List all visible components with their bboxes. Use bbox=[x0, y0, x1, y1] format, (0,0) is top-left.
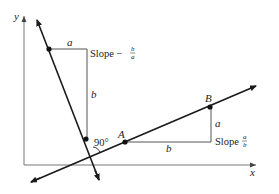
shallow-slope-text: Slope bbox=[215, 136, 239, 147]
y-axis-label: y bbox=[13, 10, 19, 22]
shallow-run-label: b bbox=[166, 142, 172, 154]
steep-lower-point bbox=[83, 136, 88, 141]
x-axis-label: x bbox=[249, 166, 255, 178]
steep-rise-label: b bbox=[91, 88, 97, 100]
steep-run-label: a bbox=[67, 36, 73, 48]
shallow-slope-denominator: b bbox=[243, 141, 247, 149]
point-a-label: A bbox=[117, 128, 125, 140]
shallow-line-lower-arrow bbox=[31, 178, 40, 182]
perpendicular-lines-diagram: y x a b Slope − b a b a Slope a b A B 90… bbox=[0, 0, 279, 194]
steep-upper-point bbox=[46, 46, 51, 51]
shallow-slope-numerator: a bbox=[243, 133, 247, 141]
right-angle-label: 90° bbox=[94, 137, 109, 148]
steep-slope-numerator: b bbox=[131, 45, 135, 53]
shallow-rise-label: a bbox=[215, 117, 221, 129]
shallow-line bbox=[31, 86, 256, 182]
point-b-label: B bbox=[205, 92, 212, 104]
point-a bbox=[122, 139, 127, 144]
steep-slope-triangle: a b Slope − b a bbox=[49, 36, 135, 139]
steep-slope-text: Slope − bbox=[90, 48, 123, 59]
axes: y x bbox=[13, 10, 256, 178]
steep-line-lower-arrow bbox=[95, 170, 99, 180]
shallow-slope-triangle: b a Slope a b A B bbox=[117, 92, 247, 154]
steep-slope-denominator: a bbox=[131, 53, 135, 61]
point-b bbox=[207, 104, 212, 109]
